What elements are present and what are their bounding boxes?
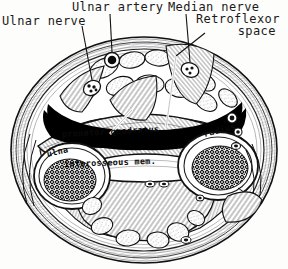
- label-retroflexor-line2: space: [196, 25, 280, 37]
- lateral-muscle-wedge: [222, 192, 262, 222]
- radius-bone: [178, 132, 258, 200]
- anatomical-figure: Ulnar artery Ulnar nerve Median nerve Re…: [0, 0, 288, 269]
- label-ulnar-artery: Ulnar artery: [72, 1, 164, 14]
- label-retroflexor-space: Retroflexorspace: [196, 13, 280, 37]
- label-ulnar-nerve: Ulnar nerve: [2, 15, 86, 28]
- ulnar-artery-vessel: [105, 53, 120, 68]
